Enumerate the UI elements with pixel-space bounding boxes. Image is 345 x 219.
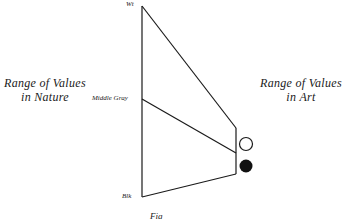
filled-circle-icon: [240, 160, 253, 173]
middle-gray-mapping-line: [142, 99, 236, 153]
art-label-line2: in Art: [258, 90, 344, 104]
black-mapping-line: [142, 174, 236, 197]
art-label-line1: Range of Values: [258, 76, 344, 90]
white-mapping-line: [142, 6, 236, 128]
open-circle-icon: [240, 138, 253, 151]
art-range-label: Range of Values in Art: [258, 76, 344, 104]
nature-label-line2: in Nature: [2, 90, 88, 104]
nature-label-line1: Range of Values: [2, 76, 88, 90]
middle-gray-label: Middle Gray: [92, 94, 128, 102]
blk-label: Blk: [122, 192, 131, 200]
diagram-lines: [0, 0, 345, 219]
wt-label: Wt: [126, 0, 134, 8]
figure-caption: Fig: [150, 211, 163, 219]
nature-range-label: Range of Values in Nature: [2, 76, 88, 104]
